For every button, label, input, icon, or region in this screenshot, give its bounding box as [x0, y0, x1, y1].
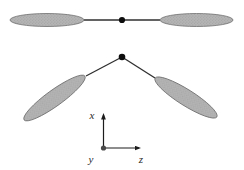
linear-configuration — [10, 14, 233, 27]
z-axis-label: z — [138, 153, 144, 165]
bent-lobe-left — [19, 70, 89, 127]
y-axis-origin-dot — [101, 145, 106, 150]
bent-lobe-right — [151, 71, 221, 123]
bent-bond-right — [122, 57, 155, 78]
y-axis-label: y — [88, 153, 94, 165]
x-axis-label: x — [89, 109, 95, 121]
linear-lobe-right — [160, 14, 233, 27]
bent-bond-left — [86, 57, 122, 76]
bent-configuration — [19, 54, 221, 127]
dumbbell-molecule-diagram: x y z — [0, 0, 244, 170]
bent-apex-node — [119, 54, 126, 61]
diagram-canvas: x y z — [0, 0, 244, 170]
linear-lobe-left — [10, 14, 84, 27]
linear-center-node — [119, 17, 125, 23]
coordinate-axes: x y z — [88, 109, 144, 165]
